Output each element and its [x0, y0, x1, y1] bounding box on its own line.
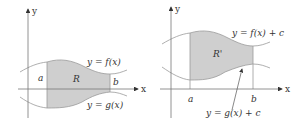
x-axis-label: x: [141, 84, 146, 94]
y-axis-label: y: [174, 4, 181, 14]
region-label: R': [212, 49, 222, 59]
bound-b-label: b: [113, 77, 119, 87]
pointer-arrow: [232, 69, 242, 110]
x-axis-label: x: [285, 84, 290, 94]
y-axis-label: y: [31, 6, 38, 16]
bound-a-label: a: [188, 94, 193, 104]
bound-a-label: a: [38, 73, 43, 83]
bottom-curve-label: y = g(x): [86, 100, 124, 110]
region-label: R: [72, 74, 80, 84]
top-curve-label: y = f(x) + c: [231, 28, 284, 38]
diagram-canvas: y x a b R y = f(x) y = g(x) y x a b R' y…: [0, 0, 300, 124]
bottom-curve-label: y = g(x) + c: [205, 108, 261, 118]
right-figure: y x a b R' y = f(x) + c y = g(x) + c: [160, 4, 290, 118]
left-figure: y x a b R y = f(x) y = g(x): [18, 6, 146, 118]
bound-b-label: b: [251, 94, 257, 104]
top-curve-label: y = f(x): [86, 57, 121, 67]
